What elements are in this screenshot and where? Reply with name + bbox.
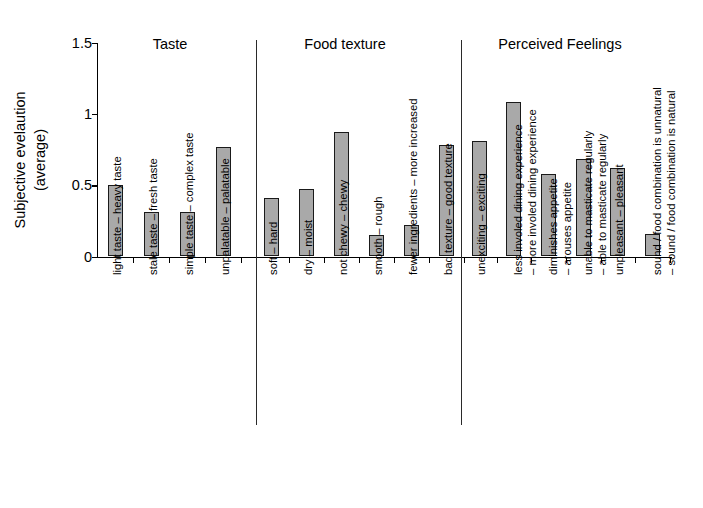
x-tick-mark <box>464 258 465 263</box>
x-tick-label: less involed dining experience– more inv… <box>512 109 540 275</box>
group-title: Perceived Feelings <box>498 36 621 52</box>
x-tick-label: stale taste – fresh taste <box>147 158 161 275</box>
y-axis-tick-labels: 00.511.5 <box>52 0 92 508</box>
x-tick-mark <box>429 258 430 263</box>
x-tick-label: diminishes appetite– arouses appetite <box>547 178 575 275</box>
x-tick-mark <box>394 258 395 263</box>
group-title: Food texture <box>304 36 385 52</box>
x-tick-mark <box>324 258 325 263</box>
group-divider <box>461 40 462 425</box>
y-axis-title-line1: Subjective evelaution <box>12 91 28 228</box>
x-tick-label: simple taste – complex taste <box>183 132 197 275</box>
y-axis-title: Subjective evelaution (average) <box>8 60 54 260</box>
x-tick-label: dry – moist <box>302 219 316 274</box>
x-tick-label: smooth – rough <box>372 196 386 275</box>
x-tick-mark <box>169 258 170 263</box>
y-tick-mark <box>92 114 98 115</box>
x-tick-mark <box>205 258 206 263</box>
y-tick-label: 0.5 <box>72 177 92 193</box>
x-tick-label: sound / food combination is unnatural– s… <box>651 87 679 275</box>
x-tick-label: bad texture – good texture <box>442 143 456 275</box>
y-tick-mark <box>92 185 98 186</box>
y-axis-line <box>97 43 98 258</box>
x-tick-mark <box>289 258 290 263</box>
x-tick-label: light taste – heavy taste <box>111 156 125 275</box>
x-tick-label: not chewy – chewy <box>337 179 351 274</box>
x-tick-mark <box>241 258 242 263</box>
y-tick-label: 1.5 <box>72 35 92 51</box>
x-tick-mark <box>133 258 134 263</box>
x-tick-label: unexciting – exciting <box>475 173 489 275</box>
x-tick-mark <box>359 258 360 263</box>
x-tick-label: unpalatable – palatable <box>219 158 233 275</box>
x-tick-label: unpleasant – pleasant <box>613 164 627 275</box>
x-tick-mark <box>497 258 498 263</box>
group-title: Taste <box>153 36 188 52</box>
x-tick-label: unable to masticate regularly– able to m… <box>582 130 610 274</box>
bar-chart: Subjective evelaution (average) 00.511.5… <box>0 0 703 508</box>
group-divider <box>256 40 257 425</box>
y-axis-title-line2: (average) <box>31 91 51 228</box>
x-tick-label: soft – hard <box>267 221 281 274</box>
y-tick-mark <box>92 43 98 44</box>
x-tick-mark <box>635 258 636 263</box>
x-tick-label: fewer ingredients – more increased <box>407 98 421 274</box>
